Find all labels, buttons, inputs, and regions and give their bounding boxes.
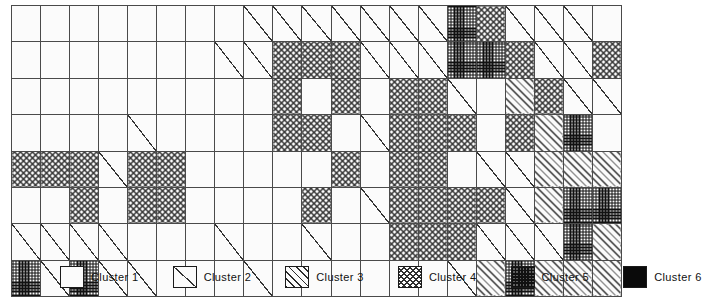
- cluster-cell: [302, 6, 331, 42]
- cluster-cell: [157, 224, 186, 260]
- cluster-cell: [534, 6, 563, 42]
- legend-item-cluster-6: Cluster 6: [623, 266, 702, 288]
- cluster-cell: [273, 42, 302, 78]
- cluster-cell: [70, 78, 99, 114]
- cluster-cell: [215, 187, 244, 223]
- cluster-cell: [41, 151, 70, 187]
- cluster-cell: [389, 115, 418, 151]
- legend-swatch-cluster-6-icon: [623, 266, 647, 288]
- cluster-cell: [99, 6, 128, 42]
- cluster-cell: [244, 6, 273, 42]
- cluster-cell: [476, 224, 505, 260]
- cluster-map-grid: [11, 5, 600, 253]
- cluster-cell: [99, 78, 128, 114]
- cluster-cell: [273, 115, 302, 151]
- cluster-cell: [70, 151, 99, 187]
- cluster-cell: [12, 187, 41, 223]
- cluster-cell: [215, 115, 244, 151]
- cluster-cell: [505, 115, 534, 151]
- cluster-cell: [505, 151, 534, 187]
- cluster-cell: [534, 151, 563, 187]
- legend-item-cluster-5: Cluster 5: [511, 266, 590, 288]
- cluster-cell: [128, 224, 157, 260]
- cluster-cell: [244, 151, 273, 187]
- cluster-heatmap-body: [12, 6, 622, 297]
- cluster-cell: [418, 151, 447, 187]
- cluster-cell: [12, 224, 41, 260]
- cluster-cell: [215, 6, 244, 42]
- legend-label-cluster-5: Cluster 5: [542, 271, 590, 283]
- legend-swatch-cluster-5-icon: [511, 266, 535, 288]
- cluster-cell: [128, 187, 157, 223]
- cluster-cell: [447, 151, 476, 187]
- cluster-cell: [331, 224, 360, 260]
- cluster-cell: [302, 151, 331, 187]
- cluster-cell: [70, 6, 99, 42]
- cluster-row: [12, 151, 622, 187]
- cluster-cell: [592, 42, 621, 78]
- cluster-cell: [447, 224, 476, 260]
- cluster-cell: [331, 151, 360, 187]
- legend-label-cluster-4: Cluster 4: [429, 271, 477, 283]
- cluster-cell: [99, 115, 128, 151]
- cluster-cell: [360, 151, 389, 187]
- cluster-cell: [447, 187, 476, 223]
- cluster-cell: [360, 78, 389, 114]
- legend-item-cluster-4: Cluster 4: [398, 266, 477, 288]
- cluster-cell: [302, 187, 331, 223]
- cluster-cell: [389, 224, 418, 260]
- cluster-cell: [302, 78, 331, 114]
- cluster-cell: [186, 151, 215, 187]
- cluster-cell: [418, 115, 447, 151]
- cluster-cell: [360, 115, 389, 151]
- cluster-cell: [534, 115, 563, 151]
- cluster-cell: [389, 151, 418, 187]
- cluster-row: [12, 224, 622, 260]
- legend-swatch-cluster-3-icon: [285, 266, 309, 288]
- legend-swatch-cluster-4-icon: [398, 266, 422, 288]
- cluster-cell: [505, 6, 534, 42]
- cluster-cell: [244, 42, 273, 78]
- cluster-cell: [99, 187, 128, 223]
- cluster-cell: [418, 6, 447, 42]
- cluster-cell: [360, 42, 389, 78]
- cluster-row: [12, 6, 622, 42]
- cluster-cell: [331, 187, 360, 223]
- cluster-cell: [418, 224, 447, 260]
- cluster-cell: [41, 115, 70, 151]
- legend-item-cluster-3: Cluster 3: [285, 266, 364, 288]
- cluster-cell: [563, 115, 592, 151]
- cluster-cell: [128, 115, 157, 151]
- cluster-cell: [215, 42, 244, 78]
- cluster-cell: [592, 78, 621, 114]
- cluster-row: [12, 187, 622, 223]
- cluster-cell: [302, 115, 331, 151]
- cluster-cell: [302, 224, 331, 260]
- cluster-cell: [12, 78, 41, 114]
- cluster-cell: [273, 224, 302, 260]
- cluster-cell: [244, 187, 273, 223]
- cluster-cell: [563, 6, 592, 42]
- cluster-cell: [128, 42, 157, 78]
- cluster-cell: [563, 224, 592, 260]
- cluster-cell: [476, 115, 505, 151]
- cluster-cell: [360, 187, 389, 223]
- cluster-cell: [70, 115, 99, 151]
- cluster-cell: [389, 6, 418, 42]
- legend-item-cluster-2: Cluster 2: [173, 266, 252, 288]
- cluster-cell: [157, 187, 186, 223]
- cluster-cell: [331, 115, 360, 151]
- cluster-cell: [186, 42, 215, 78]
- cluster-cell: [186, 187, 215, 223]
- cluster-cell: [592, 6, 621, 42]
- cluster-cell: [563, 78, 592, 114]
- cluster-cell: [592, 115, 621, 151]
- cluster-cell: [70, 42, 99, 78]
- cluster-cell: [534, 187, 563, 223]
- cluster-cell: [331, 42, 360, 78]
- legend-label-cluster-2: Cluster 2: [204, 271, 252, 283]
- cluster-cell: [157, 115, 186, 151]
- cluster-cell: [389, 78, 418, 114]
- legend-item-cluster-1: Cluster 1: [60, 266, 139, 288]
- cluster-cell: [157, 151, 186, 187]
